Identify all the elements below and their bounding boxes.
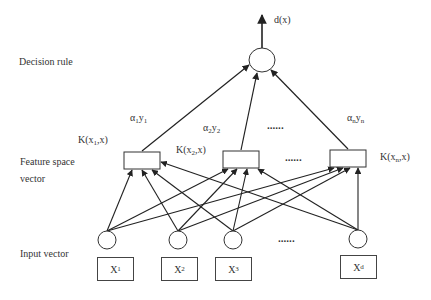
feature-ellipsis: ...... xyxy=(285,153,302,163)
input-node-d xyxy=(349,230,367,248)
feature-box-1 xyxy=(124,152,160,169)
kernel-label-2: K(x2,x) xyxy=(176,144,206,159)
weights-ellipsis: ...... xyxy=(267,121,284,131)
input-node-2 xyxy=(169,231,187,249)
input-vector-label: Input vector xyxy=(20,248,69,260)
decision-node xyxy=(249,48,275,72)
input-box-2: X2 xyxy=(161,257,198,281)
input-box-1: X1 xyxy=(97,257,134,281)
input-ellipsis: ...... xyxy=(278,234,295,244)
svm-network-diagram: Decision rule Feature space vector Input… xyxy=(0,0,431,300)
kernel-label-1: K(x1,x) xyxy=(78,134,108,149)
input-feature-edges xyxy=(107,162,358,231)
input-node-1 xyxy=(98,231,116,249)
feature-vector-label: vector xyxy=(20,173,45,185)
feature-box-2 xyxy=(223,151,259,168)
decision-rule-label: Decision rule xyxy=(19,56,73,68)
edge-feature1-decision xyxy=(142,65,249,151)
feature-box-n xyxy=(330,150,366,167)
input-box-3: X3 xyxy=(215,257,252,281)
input-node-3 xyxy=(224,231,242,249)
output-label: d(x) xyxy=(274,14,291,26)
weight-label-n: αnyn xyxy=(347,112,364,127)
weight-label-1: α1y1 xyxy=(130,112,147,127)
edge-featuren-decision xyxy=(271,70,348,149)
weight-label-2: α2y2 xyxy=(203,122,220,137)
input-box-d: Xd xyxy=(340,255,377,279)
feature-space-label: Feature space xyxy=(20,156,75,168)
kernel-label-n: K(xn,x) xyxy=(380,151,410,166)
edge-feature2-decision xyxy=(241,73,257,150)
